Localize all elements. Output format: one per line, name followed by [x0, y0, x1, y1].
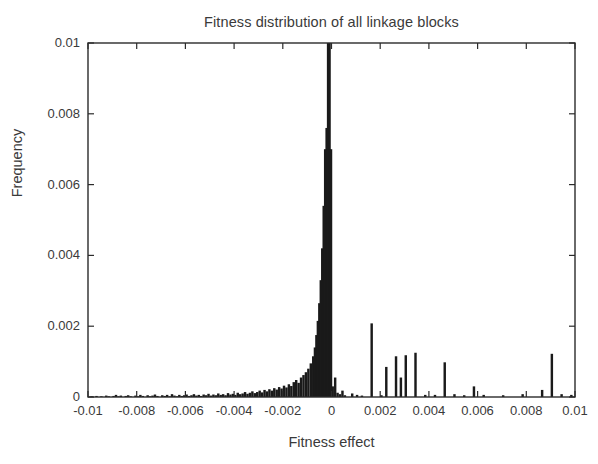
histogram-bar: [268, 389, 270, 397]
histogram-bar: [305, 372, 307, 397]
histogram-bar: [256, 392, 258, 397]
histogram-bar: [400, 378, 402, 397]
histogram-bar: [300, 378, 302, 397]
y-tick-label: 0.004: [10, 247, 80, 262]
histogram-bar: [295, 380, 297, 397]
histogram-bar: [310, 363, 312, 397]
histogram-bar: [405, 355, 407, 397]
histogram-bar: [297, 383, 299, 397]
histogram-bar: [551, 354, 553, 397]
histogram-bar: [258, 391, 260, 397]
histogram-bar: [370, 323, 372, 397]
histogram-bar: [541, 390, 543, 397]
histogram-bar: [330, 149, 332, 397]
histogram-bar: [341, 391, 343, 397]
histogram-bar: [251, 391, 253, 397]
y-tick-label: 0.01: [10, 35, 80, 50]
histogram-bar: [290, 386, 292, 397]
histogram-bar: [414, 353, 416, 397]
histogram-bar: [273, 388, 275, 397]
histogram-bar: [473, 386, 475, 397]
histogram-bar: [293, 382, 295, 397]
histogram-bar: [334, 378, 336, 397]
histogram-bar: [278, 387, 280, 397]
histogram-bar: [302, 375, 304, 397]
histogram-bar: [395, 356, 397, 397]
histogram-bar: [271, 391, 273, 397]
histogram-bar: [307, 369, 309, 397]
plot-area: [0, 0, 598, 464]
y-tick-label: 0.008: [10, 106, 80, 121]
histogram-bar: [263, 390, 265, 397]
histogram-bar: [385, 367, 387, 397]
histogram-bar: [285, 387, 287, 397]
y-tick-label: 0.002: [10, 318, 80, 333]
y-tick-label: 0: [10, 389, 80, 404]
y-tick-label: 0.006: [10, 177, 80, 192]
histogram-bar: [266, 391, 268, 397]
histogram-bar: [444, 362, 446, 397]
histogram-bar: [288, 384, 290, 397]
x-tick-label: 0.01: [540, 403, 598, 418]
histogram-bars: [90, 43, 572, 397]
histogram-bar: [244, 392, 246, 397]
histogram-bar: [276, 390, 278, 397]
figure-canvas: Fitness distribution of all linkage bloc…: [0, 0, 598, 464]
